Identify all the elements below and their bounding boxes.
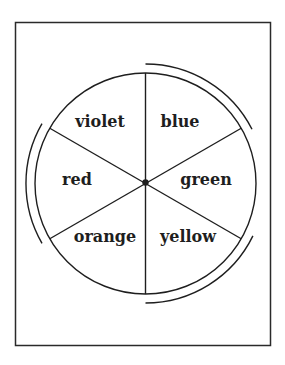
label-green: green: [180, 170, 232, 189]
segment-labels: violet blue red green orange yellow: [62, 112, 232, 246]
label-violet: violet: [74, 112, 125, 131]
label-orange: orange: [74, 227, 136, 246]
label-red: red: [62, 170, 92, 189]
outer-arc-left: [26, 124, 42, 244]
label-yellow: yellow: [159, 227, 217, 246]
color-wheel-diagram: violet blue red green orange yellow: [0, 0, 285, 365]
center-dot: [142, 179, 148, 185]
label-blue: blue: [160, 112, 199, 131]
